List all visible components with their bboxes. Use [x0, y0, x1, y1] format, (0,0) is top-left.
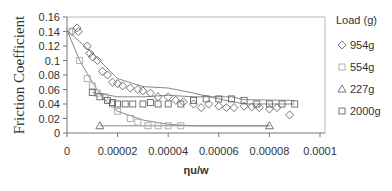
data-point-square-icon — [122, 101, 128, 107]
data-point-diamond-icon — [255, 104, 263, 112]
data-point-triangle-icon — [265, 122, 273, 129]
series-2000g — [89, 89, 297, 107]
x-tick-label: 0.0001 — [303, 145, 337, 157]
data-point-square-icon — [147, 100, 153, 106]
data-points — [67, 24, 298, 129]
y-tick-label: 0.1 — [45, 55, 60, 67]
x-axis-label: ηu/w — [183, 164, 208, 176]
data-point-diamond-icon — [126, 84, 134, 92]
data-point-diamond-icon — [197, 104, 205, 112]
data-point-diamond-icon — [222, 104, 230, 112]
x-tick-label: 0.00008 — [250, 145, 290, 157]
legend-diamond-icon — [338, 41, 346, 49]
data-point-diamond-icon — [286, 111, 294, 119]
y-axis-label: Friction Coefficient — [11, 15, 27, 134]
y-tick-label: 0.08 — [39, 69, 60, 81]
x-axis-ticks: 00.000020.000040.000060.000080.0001 — [64, 133, 337, 157]
data-point-diamond-icon — [172, 96, 180, 104]
legend-square-icon — [339, 108, 345, 114]
legend-label-954g: 954g — [350, 39, 374, 51]
data-point-diamond-icon — [273, 104, 281, 112]
legend-label-227g: 227g — [350, 83, 374, 95]
data-point-diamond-icon — [230, 104, 238, 112]
legend: Load (g) 954g554g227g2000g — [336, 14, 381, 117]
legend-square-light-icon — [339, 64, 345, 70]
x-tick-label: 0 — [64, 145, 70, 157]
data-point-diamond-icon — [154, 93, 162, 101]
data-point-square-icon — [130, 101, 136, 107]
data-point-diamond-icon — [215, 102, 223, 110]
x-tick-label: 0.00006 — [199, 145, 239, 157]
data-point-diamond-icon — [205, 100, 213, 108]
data-point-triangle-icon — [96, 122, 104, 129]
trend-lines — [67, 30, 295, 126]
y-tick-label: 0.14 — [39, 26, 60, 38]
friction-coefficient-chart: 00.020.040.060.080.10.120.140.16 00.0000… — [0, 0, 392, 191]
legend-triangle-icon — [338, 85, 346, 92]
y-tick-label: 0 — [54, 127, 60, 139]
data-point-diamond-icon — [103, 71, 111, 79]
y-axis-ticks: 00.020.040.060.080.10.120.140.16 — [39, 11, 67, 139]
y-tick-label: 0.06 — [39, 84, 60, 96]
y-tick-label: 0.04 — [39, 98, 60, 110]
data-point-square-icon — [140, 101, 146, 107]
y-tick-label: 0.12 — [39, 40, 60, 52]
data-point-diamond-icon — [179, 98, 187, 106]
x-tick-label: 0.00004 — [148, 145, 188, 157]
data-point-diamond-icon — [73, 24, 81, 32]
data-point-square-light-icon — [135, 119, 141, 125]
legend-title: Load (g) — [336, 14, 377, 26]
legend-label-2000g: 2000g — [350, 105, 381, 117]
data-point-diamond-icon — [98, 67, 106, 75]
data-point-square-icon — [165, 101, 171, 107]
trend-line-954g-fit — [67, 30, 295, 104]
legend-label-554g: 554g — [350, 61, 374, 73]
trend-line-554g-fit — [67, 30, 269, 126]
y-tick-label: 0.16 — [39, 11, 60, 23]
y-tick-label: 0.02 — [39, 113, 60, 125]
x-tick-label: 0.00002 — [98, 145, 138, 157]
data-point-square-icon — [155, 101, 161, 107]
data-point-diamond-icon — [164, 93, 172, 101]
